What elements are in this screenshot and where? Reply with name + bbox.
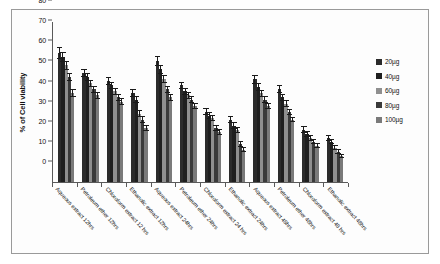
plot-area <box>52 22 348 183</box>
bar-group <box>274 22 298 182</box>
error-bar <box>265 103 270 109</box>
bar-column <box>169 22 172 182</box>
bar <box>291 120 294 182</box>
bar <box>71 93 74 182</box>
legend-swatch <box>376 117 382 123</box>
error-bar <box>314 143 319 148</box>
bar-group <box>152 22 176 182</box>
bar-group <box>103 22 127 182</box>
bar-group <box>54 22 78 182</box>
bar <box>120 102 123 183</box>
legend-label: 80µg <box>385 102 399 109</box>
bar-group <box>323 22 347 182</box>
bar-column <box>144 22 147 182</box>
legend-swatch <box>376 73 382 79</box>
bar-column <box>96 22 99 182</box>
legend-label: 40µg <box>385 73 399 80</box>
legend-item: 100µg <box>376 116 403 123</box>
legend-item: 60µg <box>376 87 403 94</box>
y-axis-tick-label: 40 <box>39 77 46 84</box>
bar-column <box>218 22 221 182</box>
bar-column <box>315 22 318 182</box>
bar <box>315 146 318 182</box>
bar-group <box>225 22 249 182</box>
bar <box>267 106 270 182</box>
bar <box>242 150 245 182</box>
error-bar <box>95 92 100 99</box>
bar-group <box>127 22 151 182</box>
error-bar <box>192 103 197 109</box>
bar-group <box>298 22 322 182</box>
legend-swatch <box>376 88 382 94</box>
y-axis-tick-mark <box>48 0 52 1</box>
bar-column <box>242 22 245 182</box>
bars-layer <box>53 22 348 182</box>
error-bar <box>168 94 173 101</box>
y-axis-tick-label: 80 <box>39 0 46 4</box>
y-axis-tick-label: 70 <box>39 17 46 24</box>
x-axis-tick-label: Chloroform extract 24 hrs <box>203 186 249 236</box>
bar <box>169 97 172 182</box>
x-axis-labels: Aqueous extract 12hrsPetroleum ether 12h… <box>52 186 348 256</box>
bar-group <box>176 22 200 182</box>
y-axis-tick-label: 50 <box>39 57 46 64</box>
x-axis-tick-mark <box>348 183 349 187</box>
bar-column <box>291 22 294 182</box>
y-axis-ticks: 01020304050607080 <box>0 0 52 161</box>
bar <box>193 106 196 182</box>
bar-column <box>340 22 343 182</box>
y-axis-tick-label: 10 <box>39 137 46 144</box>
bar <box>218 132 221 182</box>
error-bar <box>290 117 295 123</box>
bar <box>340 156 343 182</box>
legend-swatch <box>376 59 382 65</box>
y-axis-tick-label: 60 <box>39 37 46 44</box>
chart-legend: 20µg40µg60µg80µg100µg <box>376 58 403 123</box>
legend-label: 100µg <box>385 116 403 123</box>
x-axis-tick-label: Chloroform extract 12 hrs <box>104 186 150 236</box>
chart-figure: % of Cell viability 01020304050607080 Aq… <box>0 0 440 264</box>
x-axis-tick-label: Chloroform extract 48 hrs <box>302 186 348 236</box>
legend-label: 60µg <box>385 87 399 94</box>
bar-group <box>249 22 273 182</box>
bar-column <box>71 22 74 182</box>
legend-label: 20µg <box>385 58 399 65</box>
bar-group <box>201 22 225 182</box>
legend-item: 20µg <box>376 58 403 65</box>
y-axis-tick-label: 20 <box>39 117 46 124</box>
error-bar <box>241 147 246 152</box>
y-axis-tick-label: 0 <box>42 158 46 165</box>
legend-item: 80µg <box>376 102 403 109</box>
bar-column <box>267 22 270 182</box>
error-bar <box>119 98 124 104</box>
bar <box>96 95 99 182</box>
y-axis-tick-mark <box>48 20 52 21</box>
error-bar <box>217 129 222 135</box>
error-bar <box>70 89 75 97</box>
error-bar <box>339 154 344 158</box>
bar-column <box>120 22 123 182</box>
legend-swatch <box>376 102 382 108</box>
error-bar <box>143 125 148 131</box>
bar-group <box>78 22 102 182</box>
legend-item: 40µg <box>376 73 403 80</box>
bar-column <box>193 22 196 182</box>
bar <box>144 128 147 182</box>
y-axis-tick-label: 30 <box>39 97 46 104</box>
